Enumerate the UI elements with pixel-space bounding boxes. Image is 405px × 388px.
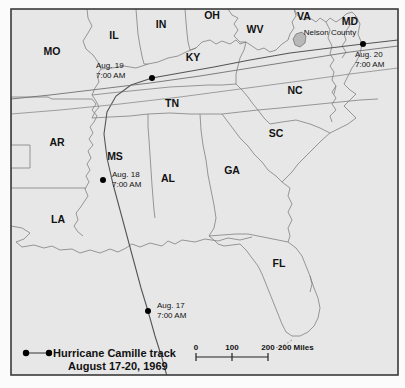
track-marker-aug-19 xyxy=(149,75,155,81)
track-label-aug-17-date: Aug. 17 xyxy=(157,301,185,310)
map-canvas: MO IL IN OH WV VA MD KY TN NC SC AR MS A… xyxy=(0,0,405,388)
state-label-ga: GA xyxy=(224,164,240,176)
nelson-county-label: Nelson County xyxy=(304,28,356,37)
state-label-va: VA xyxy=(297,10,311,22)
state-label-nc: NC xyxy=(287,84,303,96)
scale-tick-label-200: 200 xyxy=(261,343,275,352)
state-label-wv: WV xyxy=(247,23,264,35)
state-label-al: AL xyxy=(161,172,176,184)
track-marker-aug-20 xyxy=(360,41,366,47)
state-label-in: IN xyxy=(156,18,167,30)
track-label-aug-18-time: 7:00 AM xyxy=(112,180,142,189)
track-label-aug-20-date: Aug. 20 xyxy=(355,50,383,59)
state-label-md: MD xyxy=(342,15,359,27)
track-label-aug-20-time: 7:00 AM xyxy=(355,60,385,69)
state-label-ky: KY xyxy=(186,51,201,63)
state-label-ar: AR xyxy=(49,136,65,148)
track-label-aug-17-time: 7:00 AM xyxy=(157,311,187,320)
state-label-sc: SC xyxy=(269,127,284,139)
track-label-aug-18-date: Aug. 18 xyxy=(112,170,140,179)
state-label-oh: OH xyxy=(204,9,220,21)
track-marker-aug-18 xyxy=(100,177,106,183)
scale-unit-label: 200 Miles xyxy=(278,343,314,352)
legend-marker-start xyxy=(23,350,29,356)
scale-tick-label-100: 100 xyxy=(225,343,239,352)
state-label-mo: MO xyxy=(44,45,61,57)
track-marker-aug-17 xyxy=(145,308,151,314)
legend-marker-end xyxy=(46,350,52,356)
legend-title: Hurricane Camille track xyxy=(53,347,177,359)
legend-subtitle: August 17-20, 1969 xyxy=(68,360,168,372)
track-label-aug-19-time: 7:00 AM xyxy=(96,71,126,80)
state-label-tn: TN xyxy=(165,97,179,109)
state-label-la: LA xyxy=(51,213,65,225)
hurricane-track-map-figure: MO IL IN OH WV VA MD KY TN NC SC AR MS A… xyxy=(0,0,405,388)
state-label-fl: FL xyxy=(273,257,286,269)
scale-tick-label-0: 0 xyxy=(194,343,199,352)
state-label-il: IL xyxy=(109,29,119,41)
map-background xyxy=(11,9,398,375)
track-label-aug-19-date: Aug. 19 xyxy=(96,61,124,70)
state-label-ms: MS xyxy=(107,150,123,162)
